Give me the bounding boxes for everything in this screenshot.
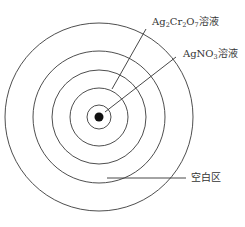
label-text: Ag <box>152 16 166 27</box>
label-text: AgNO <box>183 48 214 59</box>
label-text: O <box>186 16 194 27</box>
label-agno3-solution: AgNO3溶液 <box>183 48 238 60</box>
concentric-rings-diagram <box>0 0 245 227</box>
leader-line-ag2cr2o7 <box>112 29 146 89</box>
label-blank-zone: 空白区 <box>191 172 221 184</box>
label-text: 溶液 <box>199 16 219 27</box>
label-text: 溶液 <box>218 48 238 59</box>
label-text: 空白区 <box>191 172 221 183</box>
label-text: Cr <box>170 16 182 27</box>
center-dot <box>95 113 104 122</box>
label-ag2cr2o7-solution: Ag2Cr2O7溶液 <box>152 16 219 28</box>
